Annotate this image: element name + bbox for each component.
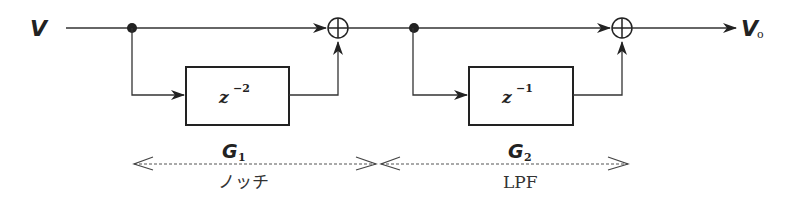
stage-g1-description: ノッチ bbox=[218, 172, 269, 192]
feedforward-path-1-in bbox=[132, 28, 184, 95]
feedforward-path-1-out bbox=[289, 42, 338, 95]
delay-block-g2 bbox=[469, 67, 573, 125]
summing-junction-2 bbox=[612, 18, 632, 38]
block-diagram: V z −2 z −1 V o G 1 ノッチ G 2 bbox=[0, 0, 790, 211]
stage-g1-subscript: 1 bbox=[238, 151, 246, 164]
branch-point-2 bbox=[409, 23, 419, 33]
stage-g2-subscript: 2 bbox=[524, 151, 532, 164]
delay-block-g1 bbox=[186, 67, 289, 125]
feedforward-path-2-out bbox=[573, 42, 622, 95]
stage-g1-span-arrow bbox=[134, 157, 376, 170]
feedforward-path-2-in bbox=[413, 28, 467, 95]
summing-junction-1 bbox=[328, 18, 348, 38]
delay-block-g1-exponent: −2 bbox=[233, 82, 250, 95]
input-signal-label: V bbox=[30, 16, 49, 41]
stage-g2-span-arrow bbox=[381, 157, 628, 170]
stage-g2-label: G bbox=[508, 140, 524, 162]
stage-g2-description: LPF bbox=[503, 172, 538, 192]
delay-block-g2-exponent: −1 bbox=[516, 82, 533, 95]
delay-block-g1-base: z bbox=[218, 87, 229, 107]
output-signal-subscript: o bbox=[757, 28, 764, 41]
delay-block-g2-base: z bbox=[501, 87, 512, 107]
stage-g1-label: G bbox=[222, 140, 238, 162]
